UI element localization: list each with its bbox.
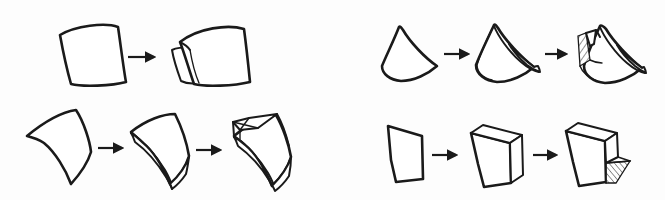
figure-container: Surface shelling / thickening transforma…: [0, 0, 665, 200]
figure-canvas: [0, 0, 665, 200]
step-planar-quadrilateral-outline: [388, 126, 423, 182]
step-curved-trapezoid-outline: [60, 25, 126, 86]
